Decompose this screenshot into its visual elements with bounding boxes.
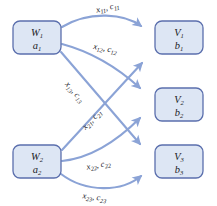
graph-canvas: W1 a1 W2 a2 V1: [0, 0, 217, 206]
edge-w2-v3: [61, 174, 141, 188]
edge-w1-v1: [62, 16, 141, 27]
node-v2[interactable]: V2 b2: [155, 88, 203, 121]
edge-label-x21-c21: x21, c21: [66, 96, 115, 147]
edge-label-x12-c12: x12, c12: [73, 37, 133, 60]
edge-label-x13-c13: x13, c13: [49, 65, 97, 117]
node-v3[interactable]: V3 b3: [155, 145, 203, 178]
bipartite-graph-diagram: W1 a1 W2 a2 V1: [0, 0, 217, 206]
node-w1[interactable]: W1 a1: [13, 21, 61, 54]
node-v1[interactable]: V1 b1: [155, 21, 203, 54]
edge-label-x23-c23: x23, c23: [63, 188, 123, 206]
node-w2[interactable]: W2 a2: [13, 145, 61, 178]
